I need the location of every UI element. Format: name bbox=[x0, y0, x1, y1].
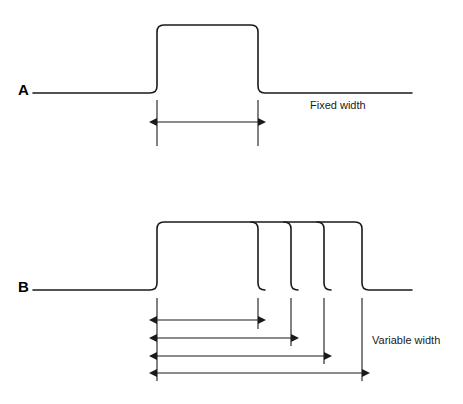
waveform-canvas: AFixed width BVariable width bbox=[0, 0, 463, 404]
waveform-group-a: AFixed width bbox=[18, 25, 412, 146]
width-annotation-a: Fixed width bbox=[310, 99, 366, 111]
waveform-label-b: B bbox=[18, 278, 29, 295]
width-annotation-b: Variable width bbox=[372, 334, 440, 346]
waveform-inner-edge-b-3 bbox=[317, 222, 331, 290]
waveform-figure: AFixed width BVariable width bbox=[0, 0, 463, 404]
waveform-label-a: A bbox=[18, 81, 29, 98]
waveform-trace-b bbox=[33, 222, 412, 290]
waveform-inner-edge-b-2 bbox=[284, 222, 298, 290]
waveform-trace-a bbox=[33, 25, 412, 93]
waveform-inner-edge-b-1 bbox=[251, 222, 265, 290]
waveform-group-b: BVariable width bbox=[18, 222, 440, 381]
